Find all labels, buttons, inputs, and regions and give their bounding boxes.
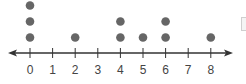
axis-tick-labels: 012345678 [27, 63, 215, 77]
tick-label: 1 [49, 63, 56, 77]
data-dot [139, 33, 148, 42]
tick-label: 0 [27, 63, 34, 77]
data-dot [207, 33, 216, 42]
data-dot [116, 17, 125, 26]
data-dot [26, 17, 35, 26]
tick-label: 4 [117, 63, 124, 77]
data-dot [26, 33, 35, 42]
tick-label: 3 [94, 63, 101, 77]
tick-label: 2 [72, 63, 79, 77]
tick-label: 5 [140, 63, 147, 77]
data-dot [71, 33, 80, 42]
data-dot [116, 33, 125, 42]
data-dot [26, 1, 35, 10]
tick-label: 7 [185, 63, 192, 77]
data-dot [161, 33, 170, 42]
data-dot [161, 17, 170, 26]
tick-label: 8 [207, 63, 214, 77]
dot-plot: 012345678 [0, 0, 246, 84]
data-dots [26, 1, 215, 42]
side-panel-tab[interactable] [241, 17, 246, 31]
tick-label: 6 [162, 63, 169, 77]
